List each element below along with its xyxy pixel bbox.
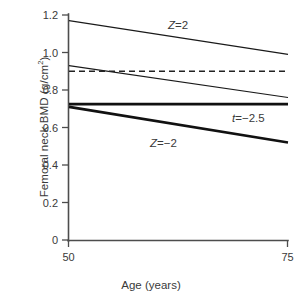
annotation-z-positive-2-text: =2 (175, 19, 188, 31)
annotation-t-score-text: =−2.5 (235, 112, 264, 124)
annotation-z-negative-2: Z=−2 (149, 137, 177, 149)
annotation-z-positive-2: Z=2 (167, 19, 188, 31)
y-axis-tick-labels: 1.2 1.0 0.8 0.6 0.4 0.2 0 (43, 9, 58, 246)
x-axis-tick-labels: 50 75 (62, 251, 293, 263)
y-tick-label-0.8: 0.8 (43, 84, 58, 96)
annotation-z-negative-2-text: =−2 (157, 137, 177, 149)
y-tick-label-0.4: 0.4 (43, 159, 58, 171)
y-tick-label-0: 0 (52, 234, 58, 246)
y-tick-label-0.2: 0.2 (43, 197, 58, 209)
y-axis-ticks (62, 15, 68, 240)
x-tick-label-50: 50 (62, 251, 74, 263)
y-tick-label-1.0: 1.0 (43, 47, 58, 59)
y-tick-label-1.2: 1.2 (43, 9, 58, 21)
annotation-t-score: t=−2.5 (232, 112, 265, 124)
y-tick-label-0.6: 0.6 (43, 122, 58, 134)
x-axis-ticks (69, 241, 288, 247)
x-tick-label-75: 75 (281, 251, 293, 263)
chart-figure: Femoral neck BMD (g/cm2) Age (years) 1.2… (0, 0, 302, 308)
series-line-mean (69, 66, 288, 98)
plot-area: 1.2 1.0 0.8 0.6 0.4 0.2 0 50 75 Z=2 (0, 0, 302, 308)
